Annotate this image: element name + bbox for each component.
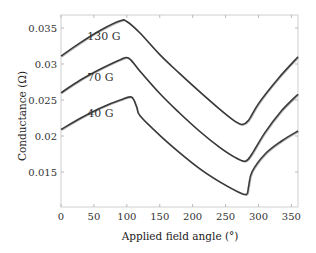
y-tick-label: 0.035 xyxy=(28,23,57,34)
y-tick-label: 0.025 xyxy=(28,95,57,106)
series-label: 40 G xyxy=(87,107,113,120)
y-tick-label: 0.02 xyxy=(35,131,57,142)
x-tick-label: 100 xyxy=(117,211,136,222)
series-label: 70 G xyxy=(87,71,113,84)
x-tick-label: 50 xyxy=(88,211,101,222)
y-tick-label: 0.015 xyxy=(28,167,57,178)
x-tick-label: 250 xyxy=(216,211,235,222)
x-axis-label: Applied field angle (°) xyxy=(121,230,239,242)
x-tick-label: 300 xyxy=(249,211,268,222)
x-tick-label: 0 xyxy=(58,211,64,222)
conductance-chart: 0501001502002503003500.0150.020.0250.030… xyxy=(0,0,316,253)
x-tick-label: 150 xyxy=(150,211,169,222)
series-labels: 130 G70 G40 G xyxy=(87,30,120,121)
series-label: 130 G xyxy=(87,30,120,43)
x-tick-label: 200 xyxy=(183,211,202,222)
x-tick-label: 350 xyxy=(282,211,301,222)
y-axis-label: Conductance (Ω) xyxy=(16,71,28,161)
axis-ticks: 0501001502002503003500.0150.020.0250.030… xyxy=(28,15,301,222)
y-tick-label: 0.03 xyxy=(35,59,57,70)
